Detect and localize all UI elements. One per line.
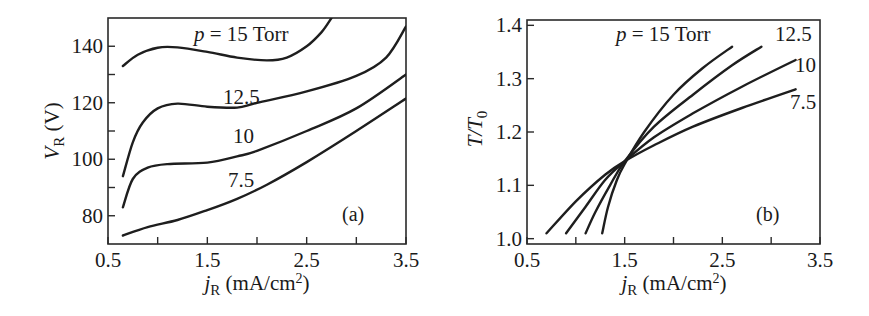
y-tick-label: 100 bbox=[72, 147, 104, 171]
figure: 0.51.52.53.580100120140 p = 15 Torr 12.5… bbox=[0, 0, 869, 316]
panel-a-tag: (a) bbox=[342, 203, 364, 226]
panel-b-temperature-chart: 0.51.52.53.51.01.11.21.31.4 p = 15 Torr … bbox=[463, 13, 833, 298]
x-tick-label: 0.5 bbox=[514, 248, 540, 272]
panel-a-label-15-torr: p = 15 Torr bbox=[192, 22, 289, 46]
panel-a-label-10: 10 bbox=[233, 124, 254, 148]
y-tick-label: 1.0 bbox=[496, 227, 522, 251]
panel-b-y-axis-label: T/T0 bbox=[463, 111, 490, 148]
y-tick-label: 80 bbox=[82, 204, 103, 228]
panel-a-voltage-chart: 0.51.52.53.580100120140 p = 15 Torr 12.5… bbox=[40, 18, 419, 298]
x-tick-label: 3.5 bbox=[807, 248, 833, 272]
y-tick-label: 1.4 bbox=[496, 13, 523, 37]
panel-b-tag: (b) bbox=[756, 203, 779, 226]
panel-b-label-12-5: 12.5 bbox=[775, 22, 812, 46]
panel-b-label-15-torr: p = 15 Torr bbox=[614, 22, 711, 46]
panel-b-x-axis-label: jR (mA/cm2) bbox=[618, 271, 726, 298]
panel-a-x-axis-label: jR (mA/cm2) bbox=[201, 271, 309, 298]
x-tick-label: 0.5 bbox=[95, 248, 121, 272]
y-tick-label: 1.2 bbox=[496, 120, 522, 144]
panel-a-label-12-5: 12.5 bbox=[223, 85, 260, 109]
y-tick-label: 1.1 bbox=[496, 173, 522, 197]
y-tick-label: 120 bbox=[72, 91, 104, 115]
curve-12-5-torr bbox=[586, 47, 762, 234]
y-tick-label: 1.3 bbox=[496, 67, 522, 91]
x-tick-label: 3.5 bbox=[393, 248, 419, 272]
curve-10-torr bbox=[123, 75, 406, 208]
x-tick-label: 1.5 bbox=[612, 248, 638, 272]
panel-a-y-axis-label: VR (V) bbox=[40, 102, 67, 159]
panel-a-label-7-5: 7.5 bbox=[228, 168, 254, 192]
curve-12-5-torr bbox=[123, 27, 406, 177]
y-tick-label: 140 bbox=[72, 34, 104, 58]
x-tick-label: 1.5 bbox=[194, 248, 220, 272]
x-tick-label: 2.5 bbox=[709, 248, 735, 272]
x-tick-label: 2.5 bbox=[294, 248, 320, 272]
panel-b-label-7-5: 7.5 bbox=[790, 90, 816, 114]
panel-b-label-10: 10 bbox=[795, 53, 816, 77]
